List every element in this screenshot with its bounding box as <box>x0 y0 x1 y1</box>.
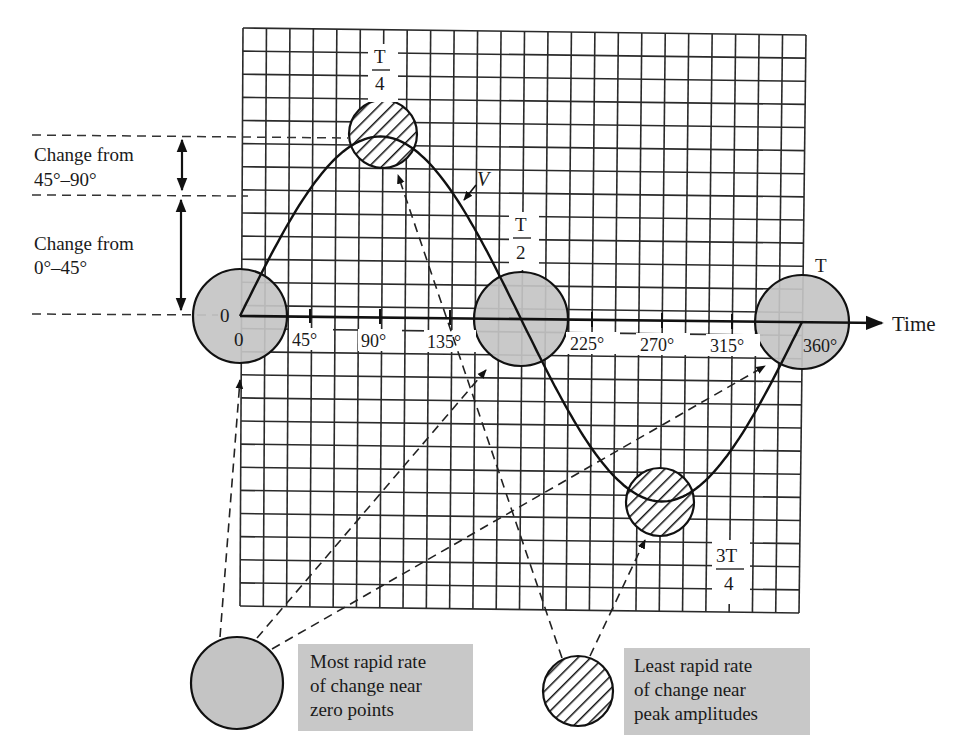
legend-peak-amplitudes: Least rapid rate of change near peak amp… <box>543 648 810 735</box>
legend-zero-points: Most rapid rate of change near zero poin… <box>191 637 473 731</box>
label-t-over-4: T 4 <box>368 44 398 102</box>
tick-315: 315° <box>710 336 744 356</box>
tick-135: 135° <box>427 332 461 352</box>
lower-change-label-line2: 0°–45° <box>34 257 87 278</box>
svg-text:Least rapid rate: Least rapid rate <box>634 655 752 676</box>
legend-shaded-circle <box>191 637 283 729</box>
sine-wave-diagram: Change from 45°–90° Change from 0°–45° T… <box>0 0 968 747</box>
svg-text:4: 4 <box>724 573 734 594</box>
tick-45: 45° <box>292 330 317 350</box>
tick-90: 90° <box>361 331 386 351</box>
tick-270: 270° <box>640 335 674 355</box>
svg-text:zero points: zero points <box>310 699 394 720</box>
peak-circle-90 <box>349 100 417 168</box>
tick-360: 360° <box>803 336 837 356</box>
svg-text:Most rapid rate: Most rapid rate <box>310 651 426 672</box>
svg-text:of change near: of change near <box>310 675 422 696</box>
lower-change-label-line1: Change from <box>34 233 134 254</box>
label-t-over-2: T 2 <box>509 212 539 270</box>
svg-text:T: T <box>374 46 386 67</box>
time-axis-label: Time <box>892 312 936 336</box>
upper-change-label-line2: 45°–90° <box>34 169 97 190</box>
upper-change-label-line1: Change from <box>34 144 134 165</box>
label-3t-over-4: 3T 4 <box>712 540 750 604</box>
origin-time-label: 0 <box>234 329 244 350</box>
label-t-full-period: T <box>815 255 827 276</box>
svg-text:of change near: of change near <box>634 679 746 700</box>
svg-text:T: T <box>515 214 527 235</box>
curve-label-v: V <box>477 168 492 190</box>
svg-text:2: 2 <box>516 242 526 263</box>
svg-text:peak amplitudes: peak amplitudes <box>634 703 758 724</box>
svg-text:3T: 3T <box>716 545 738 566</box>
tick-225: 225° <box>570 334 604 354</box>
change-arrows <box>181 140 182 310</box>
svg-text:4: 4 <box>375 73 385 94</box>
legend-hatched-circle <box>543 656 613 726</box>
origin-value-label: 0 <box>220 305 230 326</box>
